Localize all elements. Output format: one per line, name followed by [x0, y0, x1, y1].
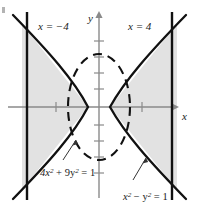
label-x-equals-minus-4: x = −4: [37, 20, 69, 32]
y-axis-label: y: [87, 12, 93, 24]
y-axis-arrow: [95, 11, 102, 18]
ellipse-eq-part-a: 4x: [40, 167, 50, 178]
hyperbola-equation-label: x2 − y2 = 1: [122, 191, 168, 203]
math-figure: x = −4 x = 4 y x 4x2 + 9y2 = 1 x2 − y2 =…: [0, 0, 199, 214]
ellipse-eq-part-b: + 9y: [53, 167, 75, 178]
figure-canvas: x = −4 x = 4 y x 4x2 + 9y2 = 1 x2 − y2 =…: [0, 0, 199, 214]
corner-artifact: [2, 7, 5, 13]
hyperbola-eq-part-c: = 1: [151, 191, 167, 202]
ellipse-eq-part-c: = 1: [79, 167, 95, 178]
x-axis-label: x: [181, 110, 187, 122]
hyperbola-eq-part-b: − y: [131, 191, 148, 202]
ellipse-equation-label: 4x2 + 9y2 = 1: [40, 167, 95, 179]
label-x-equals-4: x = 4: [127, 20, 152, 32]
